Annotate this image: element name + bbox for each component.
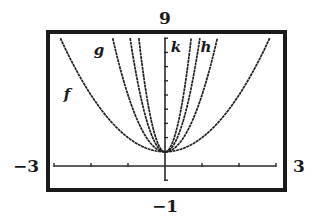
xmax-label: 3 [293,156,305,176]
curve-label-k: k [171,38,181,56]
ymin-label: −1 [152,196,178,216]
axes [54,38,276,180]
ymax-label: 9 [159,8,171,28]
curve-label-g: g [94,41,105,59]
curve-label-h: h [201,38,212,56]
plot-svg: 9 −1 −3 3 f g h k [0,0,313,222]
xmin-label: −3 [13,156,39,176]
graphing-calculator-plot: 9 −1 −3 3 f g h k [0,0,313,222]
curve-label-f: f [63,85,73,103]
